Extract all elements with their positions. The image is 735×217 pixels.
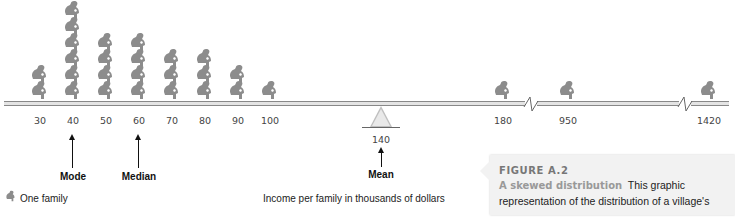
mean-label: Mean <box>368 169 394 180</box>
break-zigzag-icon <box>522 93 540 115</box>
family-person-icon <box>61 84 85 100</box>
family-stack-60 <box>127 36 151 100</box>
family-person-icon <box>193 84 217 100</box>
break-zigzag-icon <box>676 93 694 115</box>
family-person-icon <box>160 84 184 100</box>
mode-arrow-icon <box>72 139 73 168</box>
tick-label: 1420 <box>697 115 721 126</box>
family-stack-70 <box>160 52 184 100</box>
legend: One family <box>4 188 68 204</box>
fulcrum-base <box>362 127 400 128</box>
family-stack-1420 <box>697 84 721 100</box>
family-person-icon <box>28 84 52 100</box>
tick-label: 30 <box>34 115 46 126</box>
mean-value-label: 140 <box>372 134 390 145</box>
family-stack-950 <box>556 84 580 100</box>
median-arrow-icon <box>138 139 139 168</box>
mode-label: Mode <box>60 171 86 182</box>
family-person-icon <box>697 84 721 100</box>
caption-line-2: representation of the distribution of a … <box>499 195 709 207</box>
median-label: Median <box>122 171 156 182</box>
tick-label: 180 <box>494 115 512 126</box>
family-stack-50 <box>94 36 118 100</box>
tick-label: 70 <box>166 115 178 126</box>
family-person-icon <box>491 84 515 100</box>
family-stack-80 <box>193 52 217 100</box>
seesaw-beam <box>4 101 729 106</box>
tick-label: 60 <box>133 115 145 126</box>
family-stack-180 <box>491 84 515 100</box>
tick-label: 90 <box>232 115 244 126</box>
mean-arrow-icon <box>381 152 382 167</box>
tick-label: 80 <box>199 115 211 126</box>
family-stack-30 <box>28 68 52 100</box>
family-person-icon <box>127 84 151 100</box>
family-person-icon <box>94 84 118 100</box>
tick-label: 100 <box>261 115 279 126</box>
family-stack-100 <box>258 84 282 100</box>
figure-number: FIGURE A.2 <box>499 165 569 176</box>
caption-subtitle: A skewed distribution <box>499 180 622 191</box>
family-stack-40 <box>61 4 85 100</box>
tick-label: 50 <box>100 115 112 126</box>
family-person-icon <box>258 84 282 100</box>
legend-label: One family <box>20 193 68 204</box>
family-stack-90 <box>226 68 250 100</box>
x-axis-title: Income per family in thousands of dollar… <box>263 193 445 204</box>
family-person-icon <box>226 84 250 100</box>
tick-label: 950 <box>559 115 577 126</box>
tick-label: 40 <box>67 115 79 126</box>
family-person-icon <box>556 84 580 100</box>
family-person-icon <box>4 188 18 204</box>
caption-line-1: A skewed distribution This graphic <box>499 179 685 191</box>
